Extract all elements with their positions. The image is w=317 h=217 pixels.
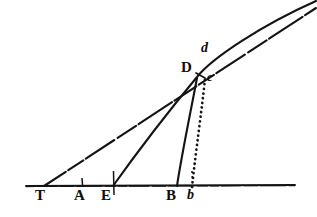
label-point-A: A: [74, 188, 85, 203]
diagram-strokes: [26, 1, 316, 195]
label-point-B: B: [166, 188, 176, 203]
label-point-E: E: [101, 188, 111, 203]
diagram-canvas: [0, 0, 317, 217]
label-point-D: D: [181, 60, 192, 75]
label-point-b: b: [187, 188, 194, 202]
label-point-d: d: [201, 41, 208, 55]
tick-A-icon: [82, 178, 83, 186]
label-point-T: T: [35, 188, 45, 203]
geometric-diagram-figure: T A E B b D d c: [0, 0, 317, 217]
label-point-c: c: [207, 70, 213, 83]
